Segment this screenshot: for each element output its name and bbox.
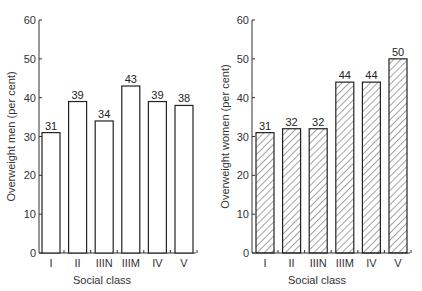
x-tick-label: IV: [366, 257, 377, 269]
x-tick-label: IIIM: [122, 257, 140, 269]
bar-value-label: 39: [71, 89, 83, 101]
bar-value-label: 44: [365, 69, 377, 81]
y-tick-label: 40: [24, 92, 36, 104]
women-bar-chart: 010203040506031I32II32IIIN44IIIM44IV50VS…: [219, 14, 411, 286]
y-tick-label: 40: [237, 92, 249, 104]
x-axis-label: Social class: [73, 274, 132, 286]
y-tick-label: 60: [237, 14, 249, 26]
x-axis-label: Social class: [288, 274, 347, 286]
bar-value-label: 38: [178, 92, 190, 104]
bar-value-label: 50: [392, 46, 404, 58]
y-tick-label: 10: [237, 208, 249, 220]
x-tick-label: II: [75, 257, 81, 269]
y-tick-label: 0: [243, 247, 249, 259]
bar-value-label: 31: [259, 120, 271, 132]
bar-value-label: 43: [125, 73, 137, 85]
bar-value-label: 39: [151, 89, 163, 101]
x-tick-label: V: [180, 257, 188, 269]
x-tick-label: I: [263, 257, 266, 269]
bar-value-label: 31: [45, 120, 57, 132]
bar-iiim: [122, 86, 140, 253]
y-tick-label: 20: [24, 169, 36, 181]
y-tick-label: 30: [237, 131, 249, 143]
x-tick-label: I: [49, 257, 52, 269]
x-tick-label: IIIN: [96, 257, 113, 269]
y-tick-label: 50: [24, 53, 36, 65]
bar-iiin: [309, 129, 327, 253]
charts-canvas: 010203040506031I39II34IIIN43IIIM39IV38VS…: [0, 0, 422, 291]
bar-ii: [283, 129, 301, 253]
bar-value-label: 34: [98, 108, 110, 120]
bar-value-label: 32: [312, 116, 324, 128]
bar-value-label: 32: [285, 116, 297, 128]
men-bar-chart: 010203040506031I39II34IIIN43IIIM39IV38VS…: [5, 14, 197, 286]
y-axis-label: Overweight women (per cent): [219, 64, 231, 208]
y-tick-label: 60: [24, 14, 36, 26]
y-tick-label: 30: [24, 131, 36, 143]
bar-value-label: 44: [339, 69, 351, 81]
x-tick-label: II: [289, 257, 295, 269]
bar-v: [175, 105, 193, 253]
bar-v: [389, 59, 407, 253]
x-tick-label: V: [394, 257, 402, 269]
y-axis-label: Overweight men (per cent): [5, 71, 17, 201]
x-tick-label: IIIN: [310, 257, 327, 269]
bar-iv: [362, 82, 380, 253]
y-tick-label: 0: [30, 247, 36, 259]
y-tick-label: 20: [237, 169, 249, 181]
y-tick-label: 10: [24, 208, 36, 220]
bar-ii: [69, 102, 87, 253]
bar-i: [256, 133, 274, 253]
bar-iiim: [336, 82, 354, 253]
bar-i: [42, 133, 60, 253]
bar-iv: [148, 102, 166, 253]
y-tick-label: 50: [237, 53, 249, 65]
x-tick-label: IIIM: [336, 257, 354, 269]
x-tick-label: IV: [152, 257, 163, 269]
bar-iiin: [95, 121, 113, 253]
